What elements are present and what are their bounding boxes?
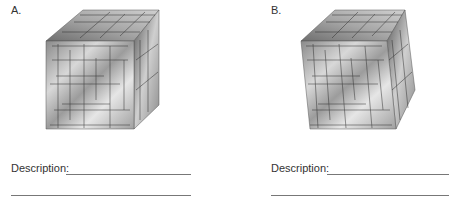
panel-a-description-label: Description: [11, 162, 69, 174]
panel-a-label: A. [11, 4, 21, 16]
panel-a-description-field[interactable] [66, 174, 191, 175]
panel-b-description-field[interactable] [327, 174, 449, 175]
panel-b-label: B. [271, 4, 281, 16]
panel-b: B. Description: [230, 0, 460, 208]
panel-b-description-label: Description: [271, 162, 329, 174]
panel-a-description-field-line-2[interactable] [11, 195, 191, 196]
panel-a: A. Description: [0, 0, 230, 208]
panel-b-description-field-line-2[interactable] [271, 195, 449, 196]
